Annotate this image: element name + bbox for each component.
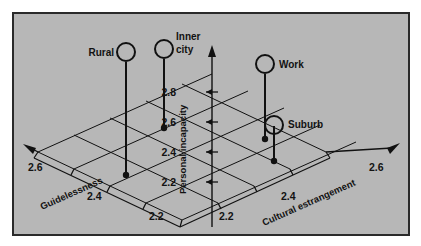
x-tick-2-4: 2.4: [87, 190, 102, 202]
z-axis-label: Personal incapacity: [177, 104, 188, 194]
scatter3d-svg: 2.6 2.4 2.2 2.2 2.4 2.6 2.2 2.4 2.6 2.8 …: [14, 14, 408, 234]
work-label: Work: [279, 59, 304, 70]
z-axis-arrow-icon: [208, 45, 216, 57]
work-base-dot: [262, 136, 268, 142]
work-marker[interactable]: [256, 55, 274, 73]
z-tick-2-4: 2.4: [161, 146, 176, 158]
y-axis: [326, 148, 392, 152]
rural-label: Rural: [88, 47, 114, 58]
y-axis-arrow-icon: [387, 143, 400, 154]
y-tick-2-2: 2.2: [219, 210, 234, 222]
y-tick-2-4: 2.4: [281, 190, 296, 202]
chart-page: 2.6 2.4 2.2 2.2 2.4 2.6 2.2 2.4 2.6 2.8 …: [0, 0, 421, 246]
z-axis-tick-arrowheads: [206, 89, 212, 185]
x-tick-2-6: 2.6: [28, 161, 43, 173]
suburb-base-dot: [271, 158, 277, 164]
y-tick-2-6: 2.6: [369, 161, 384, 173]
inner-city-label-line2: city: [176, 44, 194, 55]
inner-city-label-line1: Inner: [176, 31, 201, 42]
inner-city-base-dot: [161, 125, 167, 131]
rural-marker[interactable]: [117, 43, 135, 61]
suburb-label: Suburb: [288, 119, 323, 130]
y-axis-label: Cultural estrangement: [260, 176, 357, 227]
inner-city-marker[interactable]: [155, 40, 173, 58]
rural-base-dot: [123, 172, 129, 178]
x-tick-2-2: 2.2: [149, 210, 164, 222]
datapoint-suburb[interactable]: Suburb: [265, 116, 323, 164]
chart-frame: 2.6 2.4 2.2 2.2 2.4 2.6 2.2 2.4 2.6 2.8 …: [12, 12, 410, 236]
z-tick-2-2: 2.2: [161, 176, 176, 188]
x-axis-arrow-icon: [23, 144, 36, 154]
datapoint-rural[interactable]: Rural: [88, 43, 135, 178]
